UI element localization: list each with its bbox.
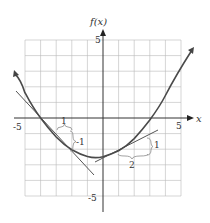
y-min-label: -5	[88, 193, 97, 203]
x-max-label: 5	[176, 121, 182, 131]
curve-left-arrow-icon	[13, 70, 19, 77]
x-axis-label: x	[196, 113, 202, 124]
y-axis-arrow-icon	[100, 29, 106, 36]
y-max-label: 5	[95, 35, 101, 45]
right-rise-label: 1	[154, 140, 160, 150]
tangent-line-left	[16, 91, 94, 175]
x-axis-arrow-icon	[187, 115, 194, 121]
right-run-brace	[118, 154, 148, 159]
left-rise-label: -1	[76, 137, 85, 147]
right-run-label: 2	[129, 160, 135, 170]
x-min-label: -5	[13, 122, 22, 132]
graph: f(x) x -5 5 5 -5 1 -1 2 1	[0, 0, 210, 223]
y-axis-label: f(x)	[89, 16, 107, 27]
left-run-label: 1	[61, 116, 67, 126]
